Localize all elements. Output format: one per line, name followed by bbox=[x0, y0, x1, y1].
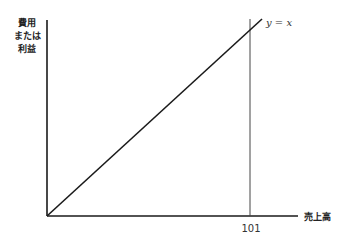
line-y-equals-x bbox=[47, 19, 262, 216]
y-axis-label-line-3: 利益 bbox=[12, 43, 42, 56]
x-axis-label: 売上高 bbox=[304, 210, 331, 223]
x-tick-101: 101 bbox=[240, 223, 262, 234]
y-axis-label-line-1: 費用 bbox=[12, 17, 42, 30]
y-axis-label-line-2: または bbox=[12, 30, 42, 43]
y-axis-label: 費用 または 利益 bbox=[12, 17, 42, 56]
chart-canvas bbox=[0, 0, 351, 244]
line-label: y = x bbox=[266, 17, 292, 28]
